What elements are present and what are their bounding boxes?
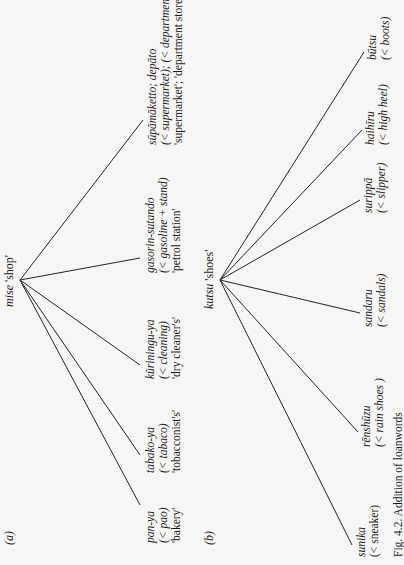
node-word: sandaru — [362, 274, 375, 327]
node-haihiru: haihīru (< high heel) — [364, 84, 390, 145]
branch-line-pan-ya — [20, 280, 140, 505]
node-source: (< sneaker) — [368, 505, 381, 557]
node-word: kūriningu-ya — [144, 317, 157, 379]
node-sandaru: sandaru (< sandals) — [362, 274, 388, 327]
node-word: haihīru — [364, 84, 377, 145]
node-gloss: 'petrol station' — [170, 177, 183, 273]
node-gasorin-sutando: gasorin-sutando (< gasoline + stand) 'pe… — [144, 177, 183, 273]
branch-line-kuriningu-ya — [20, 280, 140, 365]
panel-b-label: (b) — [202, 531, 217, 545]
mise-root-label: mise 'shop' — [2, 255, 17, 307]
node-word: surippā — [362, 163, 375, 213]
figure-caption: Fig. 4.2. Addition of loanwords — [392, 412, 404, 557]
branch-line-butsu — [220, 52, 364, 280]
node-sunika: sunika (< sneaker) — [355, 505, 381, 557]
node-gloss: 'bakery' — [170, 507, 183, 543]
rotated-figure-page: (a) mise 'shop' pan-ya (< pao) 'bakery' … — [0, 0, 404, 565]
node-gloss: 'supermarket'; 'department store' — [172, 0, 185, 145]
node-butsu: būtsu (< boots) — [366, 17, 392, 60]
root-gloss: 'shop' — [2, 255, 16, 282]
branch-line-sunika — [220, 280, 352, 545]
node-source: (< slipper) — [375, 163, 388, 213]
node-gloss: 'tobacconist's' — [170, 410, 183, 473]
branch-line-sandaru — [220, 280, 360, 313]
node-source: (< pao) — [157, 507, 170, 543]
node-source: (< high heel) — [377, 84, 390, 145]
node-word: gasorin-sutando — [144, 177, 157, 273]
node-supamaketto-depato: sūpāmāketto; depāto (< supermarket); (< … — [146, 0, 185, 145]
branch-line-supamaketto-depato — [20, 120, 143, 280]
panel-a-label: (a) — [2, 531, 17, 545]
branch-line-gasorin-sutando — [20, 258, 140, 280]
node-gloss: 'dry cleaner's' — [170, 317, 183, 379]
node-word: sunika — [355, 505, 368, 557]
node-source: (< supermarket); (< department) — [159, 0, 172, 145]
node-renshuzu: rēnshūzu (< rain shoes ) — [360, 378, 386, 447]
node-source: (< boots) — [379, 17, 392, 60]
node-surippa: surippā (< slipper) — [362, 163, 388, 213]
node-pan-ya: pan-ya (< pao) 'bakery' — [144, 507, 183, 543]
node-word: rēnshūzu — [360, 378, 373, 447]
node-source: (< sandals) — [375, 274, 388, 327]
root-word: mise — [2, 285, 16, 307]
kutsu-root-label: kutsu 'shoes' — [202, 250, 217, 309]
node-source: (< gasoline + stand) — [157, 177, 170, 273]
branch-line-renshuzu — [220, 280, 358, 432]
node-word: tabako-ya — [144, 410, 157, 473]
branch-line-surippa — [220, 200, 360, 280]
node-source: (< tabaco) — [157, 410, 170, 473]
node-word: būtsu — [366, 17, 379, 60]
root-word: kutsu — [202, 284, 216, 309]
node-word: pan-ya — [144, 507, 157, 543]
node-kuriningu-ya: kūriningu-ya (< cleaning) 'dry cleaner's… — [144, 317, 183, 379]
branch-line-haihiru — [220, 130, 362, 280]
node-source: (< cleaning) — [157, 317, 170, 379]
branch-line-tabako-ya — [20, 280, 140, 455]
node-word: sūpāmāketto; depāto — [146, 0, 159, 145]
node-tabako-ya: tabako-ya (< tabaco) 'tobacconist's' — [144, 410, 183, 473]
node-source: (< rain shoes ) — [373, 378, 386, 447]
root-gloss: 'shoes' — [202, 250, 216, 281]
